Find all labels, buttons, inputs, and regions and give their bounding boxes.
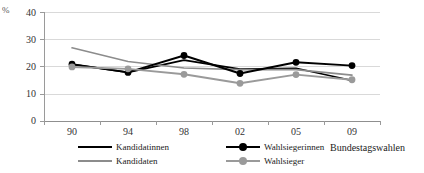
x-tickmark-start — [44, 121, 45, 125]
y-tick-label-40: 40 — [14, 7, 36, 18]
x-tick-label-90: 90 — [59, 126, 85, 137]
legend-item-kandidatinnen[interactable]: Kandidatinnen — [78, 142, 169, 152]
gridline-30 — [44, 39, 380, 40]
x-tick-label-05: 05 — [283, 126, 309, 137]
legend-swatch-line-icon — [78, 156, 112, 166]
legend-item-wahlsiegerinnen[interactable]: Wahlsiegerinnen — [226, 142, 324, 152]
gridline-10 — [44, 94, 380, 95]
x-tickmark-4 — [268, 121, 269, 125]
legend-label: Wahlsiegerinnen — [264, 142, 324, 152]
x-tickmark-1 — [100, 121, 101, 125]
gridline-40 — [44, 12, 380, 13]
y-tick-label-0: 0 — [14, 115, 36, 126]
legend-swatch-line-marker-icon — [226, 156, 260, 166]
legend-label: Kandidatinnen — [116, 142, 169, 152]
x-tick-label-02: 02 — [227, 126, 253, 137]
plot-area — [44, 12, 380, 121]
y-tick-label-30: 30 — [14, 34, 36, 45]
x-tick-label-94: 94 — [115, 126, 141, 137]
legend-swatch-line-marker-icon — [226, 142, 260, 152]
legend-swatch-line-icon — [78, 142, 112, 152]
x-tickmark-5 — [324, 121, 325, 125]
y-axis-line — [44, 12, 45, 122]
gridline-20 — [44, 66, 380, 67]
legend-item-kandidaten[interactable]: Kandidaten — [78, 156, 157, 166]
legend-label: Kandidaten — [116, 156, 157, 166]
legend-label: Wahlsieger — [264, 156, 304, 166]
chart-container: % 40 30 20 10 0 90 94 98 02 05 09 Bundes… — [0, 0, 424, 173]
chart-legend: Kandidatinnen Kandidaten Wahlsiegerinnen… — [78, 142, 346, 170]
x-tick-label-09: 09 — [339, 126, 365, 137]
x-tickmark-3 — [212, 121, 213, 125]
y-tick-label-20: 20 — [14, 61, 36, 72]
x-tickmark-end — [380, 121, 381, 125]
legend-item-wahlsieger[interactable]: Wahlsieger — [226, 156, 304, 166]
x-tick-label-98: 98 — [171, 126, 197, 137]
x-tickmark-2 — [156, 121, 157, 125]
y-axis-unit-label: % — [2, 5, 10, 15]
y-tick-label-10: 10 — [14, 88, 36, 99]
